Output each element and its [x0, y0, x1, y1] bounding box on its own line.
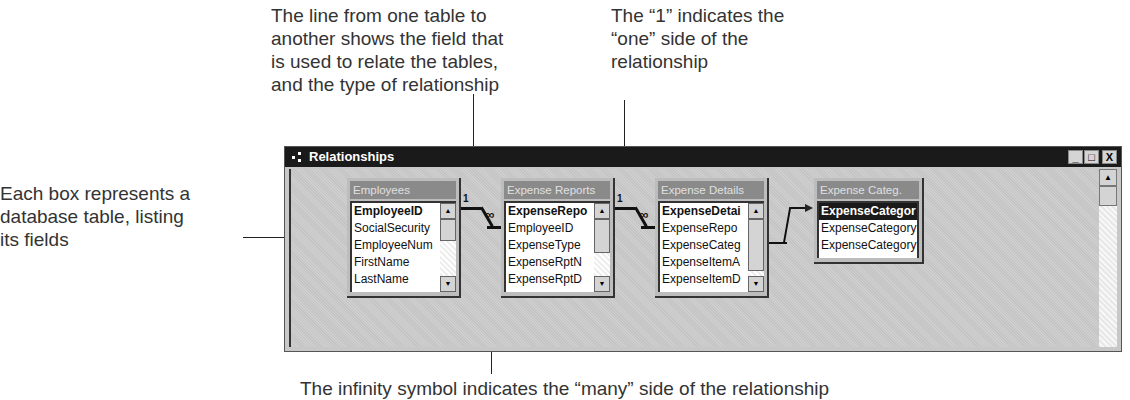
close-button[interactable]: X	[1102, 150, 1117, 164]
callout-line: relationship	[611, 50, 784, 73]
table-title[interactable]: Employees	[350, 181, 456, 199]
relationship-line[interactable]	[487, 226, 501, 229]
relationship-line[interactable]	[641, 226, 655, 229]
field-item[interactable]: ExpenseCategor	[819, 203, 917, 220]
arrow-head	[805, 204, 813, 212]
scroll-thumb[interactable]	[748, 219, 764, 271]
callout-line: its fields	[0, 228, 190, 251]
many-marker-infinity-icon: ∞	[639, 207, 646, 222]
table-title[interactable]: Expense Details	[658, 181, 764, 199]
many-marker-infinity-icon: ∞	[485, 207, 492, 222]
field-list[interactable]: ExpenseRepo EmployeeID ExpenseType Expen…	[504, 201, 610, 292]
scroll-up-button[interactable]: ▲	[594, 203, 610, 219]
table-expense-reports[interactable]: Expense Reports ExpenseRepo EmployeeID E…	[501, 178, 615, 298]
table-expense-details[interactable]: Expense Details ExpenseDetai ExpenseRepo…	[655, 178, 769, 298]
relationships-canvas[interactable]: ▲ Employees EmployeeID SocialSecurity Em…	[289, 169, 1117, 347]
callout-line: and the type of relationship	[271, 73, 503, 96]
maximize-button[interactable]: □	[1084, 150, 1099, 164]
one-marker: 1	[617, 193, 623, 204]
list-scrollbar[interactable]: ▲ ▼	[440, 203, 456, 292]
field-item[interactable]: ExpenseCategory	[819, 237, 917, 254]
vertical-scrollbar[interactable]: ▲	[1099, 169, 1117, 347]
callout-box-table: Each box represents a database table, li…	[0, 182, 190, 251]
field-list[interactable]: ExpenseDetai ExpenseRepo ExpenseCateg Ex…	[658, 201, 764, 292]
minimize-button[interactable]: _	[1068, 150, 1083, 164]
list-scrollbar[interactable]: ▲ ▼	[748, 203, 764, 292]
table-title[interactable]: Expense Categ.	[817, 181, 919, 199]
title-bar[interactable]: Relationships _ □ X	[285, 147, 1121, 167]
relationships-window: Relationships _ □ X ▲ Employees Employee…	[284, 146, 1122, 352]
scroll-thumb[interactable]	[1099, 186, 1117, 206]
callout-relationship-line: The line from one table to another shows…	[271, 4, 503, 96]
callout-infinity: The infinity symbol indicates the “many”…	[300, 377, 829, 400]
relationship-line[interactable]	[790, 207, 806, 209]
window-title: Relationships	[309, 147, 394, 167]
callout-line: The infinity symbol indicates the “many”…	[300, 377, 829, 400]
scroll-up-button[interactable]: ▲	[1099, 169, 1117, 186]
relationship-line[interactable]	[783, 207, 792, 244]
table-expense-categories[interactable]: Expense Categ. ExpenseCategor ExpenseCat…	[814, 178, 924, 264]
callout-line: “one” side of the	[611, 27, 784, 50]
scroll-up-button[interactable]: ▲	[440, 203, 456, 219]
callout-line: is used to relate the tables,	[271, 50, 503, 73]
scroll-thumb[interactable]	[594, 219, 610, 253]
relationships-icon	[291, 150, 305, 164]
field-list[interactable]: EmployeeID SocialSecurity EmployeeNum Fi…	[350, 201, 456, 292]
scroll-down-button[interactable]: ▼	[594, 276, 610, 292]
callout-one-side: The “1” indicates the “one” side of the …	[611, 4, 784, 73]
relationship-line[interactable]	[615, 207, 635, 210]
table-employees[interactable]: Employees EmployeeID SocialSecurity Empl…	[347, 178, 461, 298]
field-list[interactable]: ExpenseCategor ExpenseCategory ExpenseCa…	[817, 201, 919, 258]
list-scrollbar[interactable]: ▲ ▼	[594, 203, 610, 292]
table-title[interactable]: Expense Reports	[504, 181, 610, 199]
scroll-thumb[interactable]	[440, 219, 456, 241]
scroll-up-button[interactable]: ▲	[748, 203, 764, 219]
relationship-line[interactable]	[461, 207, 481, 210]
callout-line: Each box represents a	[0, 182, 190, 205]
scroll-down-button[interactable]: ▼	[748, 276, 764, 292]
callout-line: The “1” indicates the	[611, 4, 784, 27]
scroll-down-button[interactable]: ▼	[440, 276, 456, 292]
field-item[interactable]: ExpenseCategory	[819, 220, 917, 237]
callout-line: database table, listing	[0, 205, 190, 228]
callout-line: The line from one table to	[271, 4, 503, 27]
one-marker: 1	[463, 193, 469, 204]
callout-line: another shows the field that	[271, 27, 503, 50]
